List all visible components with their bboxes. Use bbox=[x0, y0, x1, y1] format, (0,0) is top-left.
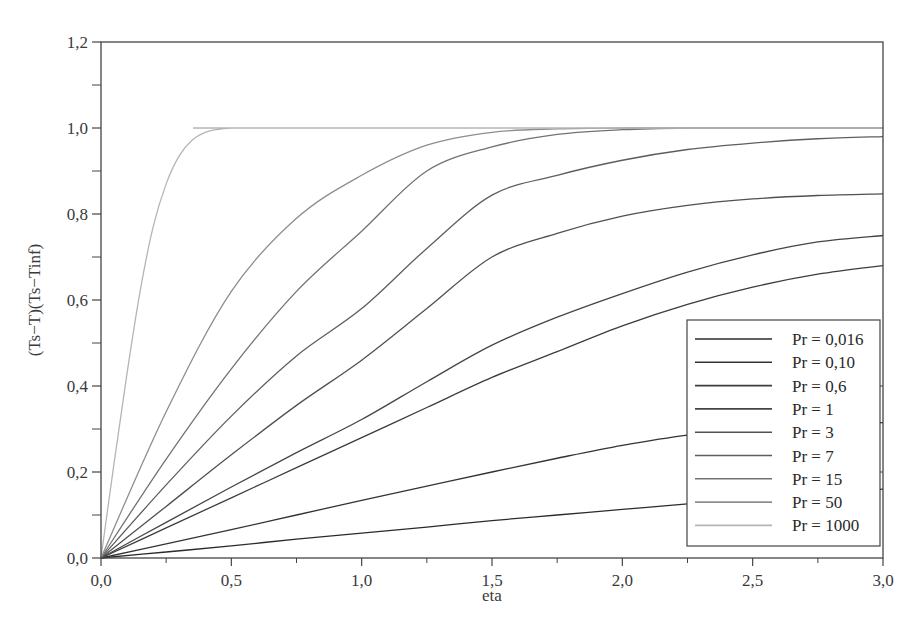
y-tick-label: 0,8 bbox=[67, 205, 88, 224]
x-tick-label: 1,0 bbox=[351, 571, 372, 590]
legend-label: Pr = 1 bbox=[792, 400, 834, 419]
y-tick-label: 1,0 bbox=[67, 119, 88, 138]
legend-label: Pr = 3 bbox=[792, 423, 834, 442]
x-tick-label: 0,0 bbox=[90, 571, 111, 590]
x-tick-label: 2,0 bbox=[612, 571, 633, 590]
legend-label: Pr = 0,10 bbox=[792, 353, 855, 372]
legend-label: Pr = 1000 bbox=[792, 516, 859, 535]
y-axis-title: (Ts−T)(Ts−Tinf) bbox=[25, 244, 44, 357]
y-tick-label: 1,2 bbox=[67, 33, 88, 52]
legend-label: Pr = 7 bbox=[792, 447, 834, 466]
y-tick-label: 0,0 bbox=[67, 549, 88, 568]
legend: Pr = 0,016Pr = 0,10Pr = 0,6Pr = 1Pr = 3P… bbox=[687, 320, 880, 546]
legend-label: Pr = 50 bbox=[792, 493, 842, 512]
x-tick-label: 3,0 bbox=[872, 571, 893, 590]
x-tick-label: 2,5 bbox=[742, 571, 763, 590]
x-tick-label: 0,5 bbox=[221, 571, 242, 590]
y-tick-label: 0,2 bbox=[67, 463, 88, 482]
chart: 0,00,51,01,52,02,53,0 0,00,20,40,60,81,0… bbox=[0, 0, 922, 639]
y-tick-label: 0,4 bbox=[67, 377, 89, 396]
legend-label: Pr = 0,016 bbox=[792, 330, 863, 349]
legend-label: Pr = 15 bbox=[792, 470, 842, 489]
y-tick-label: 0,6 bbox=[67, 291, 88, 310]
legend-label: Pr = 0,6 bbox=[792, 377, 846, 396]
x-axis-title: eta bbox=[482, 586, 502, 605]
